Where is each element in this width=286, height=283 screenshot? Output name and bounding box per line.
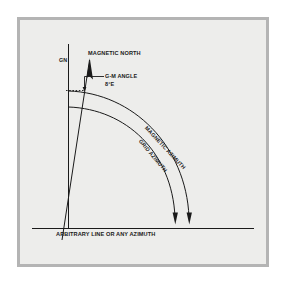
gm-angle-label: G-M ANGLE bbox=[105, 73, 137, 80]
gm-angle-value-label: 8°E bbox=[105, 81, 114, 88]
grid-north-label: GN bbox=[59, 57, 67, 64]
declination-diagram-figure: GN MAGNETIC NORTH G-M ANGLE 8°E MAGNETIC… bbox=[0, 0, 286, 283]
baseline-label: ARBITRARY LINE OR ANY AZIMUTH bbox=[56, 231, 155, 238]
gm-angle-leader bbox=[85, 77, 105, 89]
magnetic-azimuth-arrowhead bbox=[187, 213, 192, 225]
grid-azimuth-arrowhead bbox=[173, 213, 178, 225]
magnetic-north-label: MAGNETIC NORTH bbox=[88, 50, 141, 57]
